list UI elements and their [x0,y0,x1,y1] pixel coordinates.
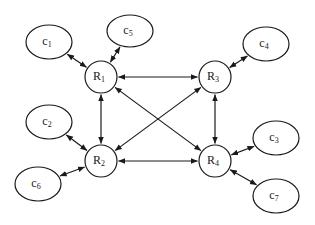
client-node-c1: c1 [26,25,72,59]
client-node-c5: c5 [107,15,153,47]
client-node-c6: c6 [15,167,61,201]
nodes: R1R2R3R4c1c5c4c2c6c3c7 [15,15,299,213]
client-node-c7: c7 [253,179,299,213]
network-diagram: R1R2R3R4c1c5c4c2c6c3c7 [0,0,315,225]
edge-c1-r1 [67,54,86,67]
edge-c6-r2 [60,167,85,176]
client-node-c4: c4 [243,27,289,61]
edge-c4-r3 [230,56,248,67]
router-node-r2: R2 [85,145,117,177]
edge-c5-r1 [110,47,120,62]
router-node-r1: R1 [85,61,117,93]
router-node-r4: R4 [199,145,231,177]
client-node-c3: c3 [253,121,299,155]
router-node-r3: R3 [199,61,231,93]
client-node-c2: c2 [26,105,72,139]
edge-c7-r4 [230,170,256,185]
edge-c2-r2 [66,135,87,150]
edge-c3-r4 [231,146,254,155]
